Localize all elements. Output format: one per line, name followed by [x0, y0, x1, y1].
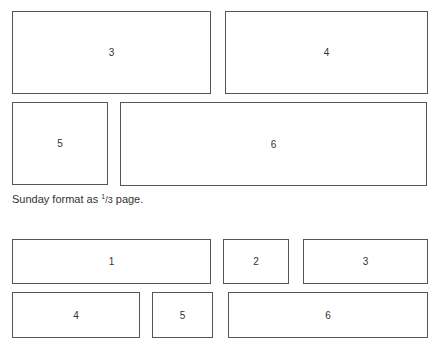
- caption-text-end: page.: [113, 193, 144, 205]
- box-label: 2: [253, 256, 259, 267]
- bottom-box-4: 4: [12, 292, 140, 338]
- bottom-box-3: 3: [303, 239, 428, 284]
- box-label: 6: [325, 310, 331, 321]
- box-label: 4: [324, 47, 330, 58]
- bottom-box-6: 6: [228, 292, 428, 338]
- box-label: 3: [109, 47, 115, 58]
- bottom-box-1: 1: [12, 239, 211, 284]
- box-label: 4: [73, 310, 79, 321]
- top-box-4: 4: [225, 11, 428, 94]
- bottom-box-5: 5: [152, 292, 213, 338]
- box-label: 6: [271, 139, 277, 150]
- box-label: 1: [109, 256, 115, 267]
- box-label: 5: [180, 310, 186, 321]
- bottom-box-2: 2: [223, 239, 289, 284]
- top-box-5: 5: [12, 102, 108, 185]
- caption-text: Sunday format as: [12, 193, 101, 205]
- box-label: 3: [363, 256, 369, 267]
- top-box-6: 6: [120, 102, 427, 186]
- caption: Sunday format as 1/3 page.: [12, 193, 143, 205]
- box-label: 5: [57, 138, 63, 149]
- caption-fraction-denominator: /3: [105, 195, 113, 205]
- top-box-3: 3: [12, 11, 211, 94]
